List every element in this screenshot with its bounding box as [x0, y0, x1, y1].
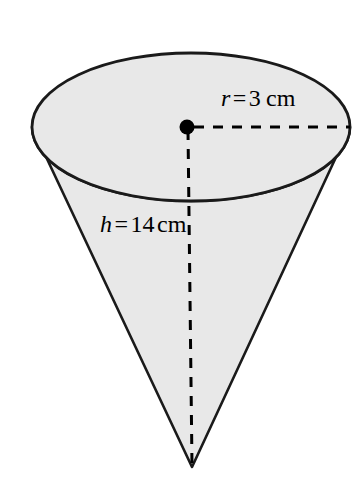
- center-point-dot: [180, 120, 195, 135]
- height-value: 14: [130, 211, 154, 237]
- cone-figure: r = 3 cm h = 14 cm: [0, 0, 362, 493]
- radius-unit: cm: [266, 85, 296, 111]
- radius-label: r = 3 cm: [221, 86, 296, 110]
- height-unit: cm: [157, 211, 187, 237]
- radius-value: 3: [249, 85, 261, 111]
- height-equals-sign: =: [114, 211, 128, 237]
- height-label: h = 14 cm: [100, 212, 187, 236]
- radius-equals-sign: =: [233, 85, 247, 111]
- radius-symbol: r: [221, 85, 231, 111]
- cone-diagram-svg: [0, 0, 362, 493]
- height-symbol: h: [100, 211, 112, 237]
